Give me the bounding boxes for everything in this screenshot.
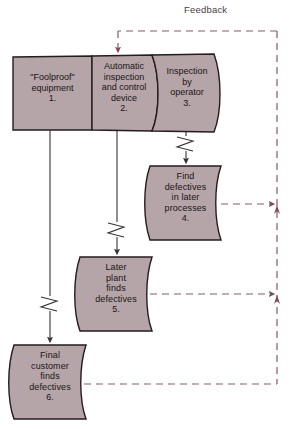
break-mark-1-to-6: [41, 297, 57, 311]
bar-cell-2-label: Automatic inspection and control device …: [93, 61, 155, 114]
node-6-shape: [9, 345, 86, 419]
bar-cell-1-label: "Foolproof" equipment 1.: [13, 72, 92, 104]
break-mark-3-to-4: [177, 137, 193, 151]
break-mark-2-to-5: [108, 223, 124, 237]
flow-diagram: Feedback "Foolproof" equipment 1. Automa…: [0, 0, 291, 429]
bar-cell-3-label: Inspection by operator 3.: [156, 66, 218, 108]
node-5-shape: [75, 257, 152, 331]
feedback-label: Feedback: [184, 4, 227, 15]
feedback-trunk-arrow-lower: [274, 295, 280, 304]
node-4-shape: [145, 166, 221, 240]
